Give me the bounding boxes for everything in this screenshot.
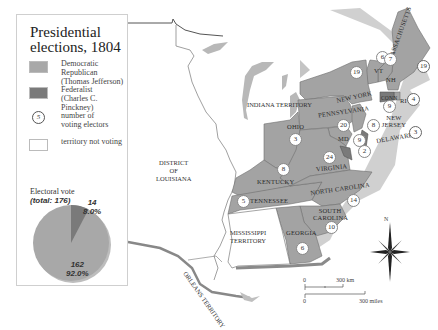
electors-massachusetts: 19 <box>417 60 430 73</box>
label-vermont: VT <box>374 67 383 74</box>
legend-label-federalist: Federalist (Charles C. Pinckney) <box>61 85 131 112</box>
pie-label-federalist: 14 8.0% <box>83 198 101 216</box>
scale-zero-mi: 0 <box>303 298 306 304</box>
label-district-of-louisiana: DISTRICT OF LOUISIANA <box>156 159 191 183</box>
label-kentucky: KENTUCKY <box>257 178 294 185</box>
legend-panel: Presidential elections, 1804 Democratic … <box>16 14 128 286</box>
scale-mi-label: 300 miles <box>359 298 383 304</box>
legend-item-democratic-republican: Democratic Republican (Thomas Jefferson) <box>29 59 131 86</box>
label-tennessee: TENNESSEE <box>250 197 288 204</box>
legend-item-electors: 5 number of voting electors <box>29 111 131 129</box>
delta-marsh <box>240 292 260 302</box>
pie-label-democratic-republican: 162 92.0% <box>66 260 89 278</box>
electors-ohio: 3 <box>289 133 302 146</box>
label-georgia: GEORGIA <box>286 229 317 236</box>
electors-new-york: 19 <box>350 66 363 79</box>
label-new-jersey: NEW JERSEY <box>380 114 408 128</box>
legend-label-electors: number of voting electors <box>61 111 131 129</box>
legend-title: Presidential elections, 1804 <box>30 25 121 55</box>
compass-rose <box>370 222 410 282</box>
label-rhode-island: RI <box>400 97 407 104</box>
electors-maryland-federalist: 2 <box>358 145 371 158</box>
label-south-carolina: SOUTH CAROLINA <box>313 207 347 221</box>
legend-item-not-voting: territory not voting <box>29 137 131 151</box>
compass-north-label: N <box>384 216 388 222</box>
swatch-democratic-republican <box>29 61 48 73</box>
electors-new-hampshire: 7 <box>384 53 397 66</box>
electors-delaware: 3 <box>409 126 422 139</box>
swatch-federalist <box>29 87 48 99</box>
electors-new-jersey: 8 <box>367 119 380 132</box>
label-indiana-territory: INDIANA TERRITORY <box>247 101 312 109</box>
legend-item-federalist: Federalist (Charles C. Pinckney) <box>29 85 131 112</box>
electors-north-carolina: 14 <box>347 194 360 207</box>
electors-rhode-island: 4 <box>407 93 420 106</box>
label-maryland: MD <box>338 135 349 142</box>
label-mississippi-territory: MISSISSIPPI TERRITORY <box>230 229 266 245</box>
electors-pennsylvania: 20 <box>337 119 350 132</box>
legend-label-democratic-republican: Democratic Republican (Thomas Jefferson) <box>61 59 131 86</box>
label-ohio: OHIO <box>287 123 304 130</box>
orleans-border <box>188 256 222 262</box>
legend-label-not-voting: territory not voting <box>61 137 131 146</box>
electors-georgia: 6 <box>296 242 309 255</box>
lake-huron <box>282 74 288 90</box>
swatch-not-voting <box>29 139 48 151</box>
scale-bar <box>305 284 365 298</box>
lake-ontario <box>300 60 310 78</box>
electors-south-carolina: 10 <box>325 221 338 234</box>
electors-virginia: 24 <box>323 151 336 164</box>
electors-circle-icon: 5 <box>32 111 45 124</box>
electors-tennessee: 5 <box>237 195 250 208</box>
lake-michigan <box>242 62 274 120</box>
scale-zero-km: 0 <box>303 277 306 283</box>
mississippi-river <box>176 25 236 280</box>
legend-title-line2: elections, 1804 <box>30 40 121 55</box>
scale-km-label: 300 km <box>336 277 354 283</box>
legend-title-line1: Presidential <box>30 25 121 40</box>
lake-superior <box>202 42 228 54</box>
electors-kentucky: 8 <box>277 163 290 176</box>
label-new-hampshire: NH <box>386 76 396 83</box>
electors-connecticut: 9 <box>383 100 396 113</box>
northern-border <box>128 19 223 36</box>
